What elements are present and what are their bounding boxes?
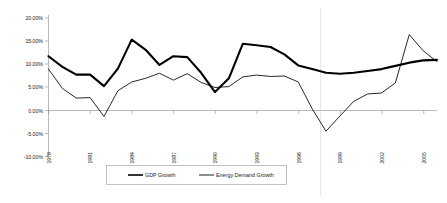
x-tick-label: 1987 xyxy=(171,152,177,164)
x-tick-label: 2002 xyxy=(379,152,385,164)
chart-legend: GDP Growth Energy Demand Growth xyxy=(107,166,287,185)
legend-label-energy-demand-growth: Energy Demand Growth xyxy=(216,172,274,178)
x-tick-label: 1984 xyxy=(129,152,135,164)
legend-label-gdp-growth: GDP Growth xyxy=(145,172,175,178)
y-tick-label: 15.00% xyxy=(25,38,43,44)
y-tick-label: -10.00% xyxy=(24,154,44,160)
y-tick-label: 10.00% xyxy=(25,61,43,67)
x-tick-label: 1999 xyxy=(337,152,343,164)
line-chart: 20.00% 15.00% 10.00% 5.00% 0.00% -5.00% … xyxy=(0,0,447,203)
y-tick-label: 0.00% xyxy=(28,108,43,114)
x-tick-label: 1990 xyxy=(212,152,218,164)
y-tick-label: 20.00% xyxy=(25,15,43,21)
x-tick-label: 1993 xyxy=(254,152,260,164)
x-tick-label: 1996 xyxy=(296,152,302,164)
chart-container: 20.00% 15.00% 10.00% 5.00% 0.00% -5.00% … xyxy=(0,0,447,203)
y-tick-label: 5.00% xyxy=(28,84,43,90)
y-tick-label: -5.00% xyxy=(27,131,44,137)
x-tick-label: 2005 xyxy=(421,152,427,164)
x-tick-label: 1978 xyxy=(46,152,52,164)
x-tick-label: 1981 xyxy=(87,152,93,164)
